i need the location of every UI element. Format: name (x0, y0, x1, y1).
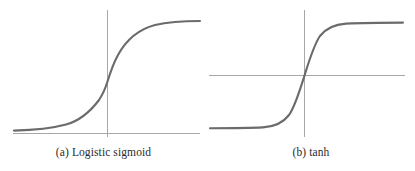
figure-container: (a) Logistic sigmoid (b) tanh (0, 0, 415, 171)
panel-tanh: (b) tanh (207, 0, 415, 171)
caption-logistic-sigmoid: (a) Logistic sigmoid (0, 145, 207, 159)
logistic-sigmoid-plot (0, 0, 207, 145)
caption-tanh: (b) tanh (207, 145, 415, 159)
tanh-plot (207, 0, 415, 145)
panel-logistic-sigmoid: (a) Logistic sigmoid (0, 0, 207, 171)
